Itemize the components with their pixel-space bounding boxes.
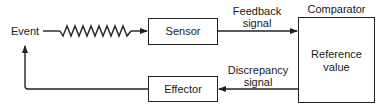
- comparator-title: Comparator: [298, 3, 375, 15]
- zigzag-stimulus-line: [60, 26, 131, 36]
- reference-value-line1: Reference: [311, 48, 362, 61]
- feedback-signal-label: Feedback signal: [224, 5, 290, 29]
- discrepancy-signal-label-line1: Discrepancy: [220, 64, 296, 76]
- reference-value-line2: value: [311, 61, 362, 74]
- discrepancy-signal-label-line2: signal: [220, 76, 296, 88]
- comparator-box: Reference value: [298, 17, 375, 103]
- discrepancy-signal-label: Discrepancy signal: [220, 64, 296, 88]
- event-label: Event: [11, 25, 39, 37]
- effector-to-event-arrow: [25, 46, 148, 89]
- effector-label: Effector: [164, 83, 202, 96]
- effector-box: Effector: [148, 76, 218, 102]
- feedback-signal-label-line2: signal: [224, 17, 290, 29]
- feedback-signal-label-line1: Feedback: [224, 5, 290, 17]
- sensor-box: Sensor: [148, 18, 218, 45]
- sensor-label: Sensor: [166, 25, 201, 38]
- event-to-sensor-arrow: [43, 26, 147, 36]
